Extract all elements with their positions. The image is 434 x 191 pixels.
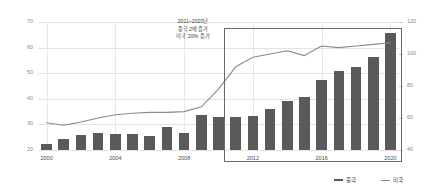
x-axis-tick-label: 2004 xyxy=(100,155,130,161)
x-axis-tick-label: 2008 xyxy=(169,155,199,161)
legend-line-swatch-icon xyxy=(381,180,390,181)
annotation-line: 미국 20% 증가 xyxy=(162,33,224,41)
highlight-box-2011-2020 xyxy=(224,28,402,162)
chart-container: 203040506070 406080100120 2011~2020년중국 2… xyxy=(0,0,434,191)
legend-item-usa: 미국 xyxy=(381,176,403,184)
annotation-line: 중국 2배 증가 xyxy=(162,26,224,34)
annotation-line: 2011~2020년 xyxy=(162,18,224,26)
growth-callout-annotation: 2011~2020년중국 2배 증가미국 20% 증가 xyxy=(162,18,224,41)
legend-item-china: 중국 xyxy=(334,176,356,184)
x-axis-tick-label: 2016 xyxy=(307,155,337,161)
legend-bar-swatch-icon xyxy=(334,179,343,182)
x-axis-tick-label: 2012 xyxy=(238,155,268,161)
legend-label-china: 중국 xyxy=(346,176,356,184)
x-axis-tick-label: 2020 xyxy=(375,155,405,161)
legend-label-usa: 미국 xyxy=(393,176,403,184)
x-axis-tick-label: 2000 xyxy=(32,155,62,161)
